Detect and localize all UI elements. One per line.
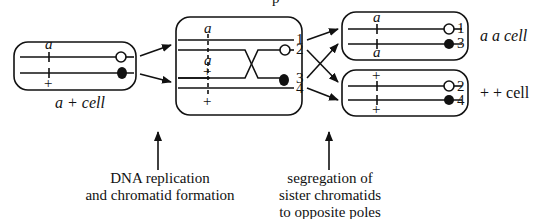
middle-cell-outline [176, 17, 302, 115]
plus-plus-cell-caption: + + cell [480, 84, 529, 101]
bottom-right-cell-outline [342, 70, 468, 116]
top-right-cell-outline [342, 12, 468, 60]
left-allele-a: a [45, 36, 53, 53]
chromatid-num-4: 4 [296, 80, 304, 97]
centromere-filled [117, 67, 127, 79]
tr-num-3: 3 [457, 35, 465, 52]
centromere-filled [444, 39, 454, 49]
mid-allele-4: + [203, 93, 211, 110]
centromere-open [280, 45, 290, 55]
segregation-line-3: to opposite poles [260, 204, 400, 219]
segregation-line-1: segregation of [260, 170, 400, 187]
left-cell-outline [14, 42, 136, 90]
chromatid-num-2: 2 [296, 41, 304, 58]
left-allele-plus: + [44, 75, 52, 92]
title-fragment: p [272, 0, 280, 7]
left-cell-caption: a + cell [55, 94, 105, 111]
centromere-filled [279, 74, 289, 86]
tr-allele-1: a [373, 9, 381, 26]
aa-cell-caption: a a cell [480, 27, 527, 44]
replication-annotation: DNA replication and chromatid formation [80, 170, 240, 204]
centromere-open [444, 81, 454, 91]
replication-line-2: and chromatid formation [80, 187, 240, 204]
mid-allele-3: + [203, 63, 211, 80]
br-num-4: 4 [457, 92, 465, 109]
br-allele-2: + [372, 101, 380, 118]
centromere-open [116, 52, 126, 62]
br-allele-1: + [372, 67, 380, 84]
tr-allele-2: a [373, 44, 381, 61]
centromere-open [444, 24, 454, 34]
replication-line-1: DNA replication [80, 170, 240, 187]
segregation-annotation: segregation of sister chromatids to oppo… [260, 170, 400, 219]
mid-allele-1: a [204, 20, 212, 37]
centromere-filled [444, 95, 454, 105]
segregation-line-2: sister chromatids [260, 187, 400, 204]
